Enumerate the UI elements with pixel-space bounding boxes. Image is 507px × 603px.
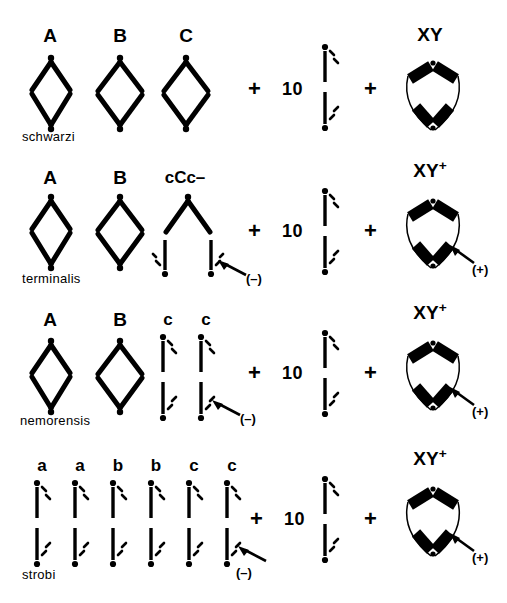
chromosome-label-b-1: b xyxy=(108,456,128,475)
chromosome-label-c-2: c xyxy=(222,456,242,475)
minus-arrow-pointer xyxy=(236,544,270,566)
ring-bivalent-A xyxy=(26,336,76,418)
karyotype-row-terminalis: A B cCc– xyxy=(0,148,507,296)
chromosome-label-B: B xyxy=(106,168,134,187)
ring-bivalent-B xyxy=(92,192,148,274)
chromosome-label-A: A xyxy=(36,168,64,187)
karyotype-row-nemorensis: A B c c xyxy=(0,294,507,442)
chromosome-label-B: B xyxy=(106,26,134,45)
ring-bivalent-C xyxy=(158,53,214,135)
xy-sex-chromosome-ring xyxy=(398,50,468,140)
sex-chromosome-label-text: XY xyxy=(413,160,438,181)
plus-annotation-label: (+) xyxy=(472,263,488,276)
minus-annotation-label: (–) xyxy=(236,566,252,579)
ring-bivalent-A xyxy=(26,53,76,135)
chromosome-label-b-2: b xyxy=(146,456,166,475)
sex-chromosome-label-text: XY xyxy=(413,302,438,323)
bivalent-count: 10 xyxy=(282,80,303,98)
plus-sign-2: + xyxy=(364,508,377,530)
rod-bivalent-group xyxy=(318,40,348,138)
chromosome-label-cCc-minus: cCc– xyxy=(152,168,218,187)
sex-chromosome-label: XY+ xyxy=(402,303,458,322)
sex-chromosome-label: XY+ xyxy=(402,449,458,468)
chromosome-label-c-1: c xyxy=(158,310,178,329)
chromosome-label-a-1: a xyxy=(32,456,52,475)
sex-chromosome-superscript: + xyxy=(439,446,447,461)
plus-sign-2: + xyxy=(364,78,377,100)
species-name-strobi: strobi xyxy=(22,568,56,581)
bivalent-count: 10 xyxy=(284,510,305,528)
chromosome-label-a-2: a xyxy=(70,456,90,475)
minus-annotation-label: (–) xyxy=(240,412,256,425)
sex-chromosome-label: XY+ xyxy=(402,161,458,180)
species-name-schwarzi: schwarzi xyxy=(22,130,75,143)
ring-bivalent-A xyxy=(26,192,76,274)
rod-bivalent-group xyxy=(318,326,348,424)
plus-annotation-label: (+) xyxy=(472,551,488,564)
plus-sign-1: + xyxy=(250,508,263,530)
chromosome-karyotype-figure: A B C xyxy=(0,0,507,603)
plus-sign-1: + xyxy=(248,220,261,242)
sex-chromosome-label-text: XY xyxy=(413,448,438,469)
minus-arrow-pointer xyxy=(216,258,250,280)
chromosome-label-A: A xyxy=(36,26,64,45)
plus-annotation-label: (+) xyxy=(472,405,488,418)
sex-chromosome-superscript: + xyxy=(439,300,447,315)
plus-sign-2: + xyxy=(364,220,377,242)
bivalent-count: 10 xyxy=(282,364,303,382)
sex-chromosome-superscript: + xyxy=(439,158,447,173)
rod-univalent-b-1 xyxy=(106,476,136,574)
species-name-terminalis: terminalis xyxy=(22,272,81,285)
sex-chromosome-label-text: XY xyxy=(417,24,442,45)
species-name-nemorensis: nemorensis xyxy=(20,414,90,427)
chromosome-label-B: B xyxy=(106,310,134,329)
rod-univalent-a-2 xyxy=(68,476,98,574)
ring-bivalent-B xyxy=(92,53,148,135)
sex-chromosome-label: XY xyxy=(404,25,456,44)
chromosome-label-C: C xyxy=(172,26,200,45)
rod-univalent-b-2 xyxy=(144,476,174,574)
bivalent-count: 10 xyxy=(282,222,303,240)
plus-sign-1: + xyxy=(248,78,261,100)
rod-univalent-c-1 xyxy=(156,330,186,428)
karyotype-row-schwarzi: A B C xyxy=(0,0,507,150)
rod-bivalent-group xyxy=(318,472,348,570)
karyotype-row-strobi: a a b b c c xyxy=(0,440,507,603)
rod-univalent-a-1 xyxy=(30,476,60,574)
chromosome-label-c-2: c xyxy=(196,310,216,329)
rod-univalent-c-1 xyxy=(182,476,212,574)
rod-bivalent-group xyxy=(318,184,348,282)
chromosome-label-A: A xyxy=(36,310,64,329)
minus-annotation-label: (–) xyxy=(246,272,262,285)
trivalent-cCc xyxy=(152,192,224,282)
ring-bivalent-B xyxy=(92,336,148,418)
chromosome-label-c-1: c xyxy=(184,456,204,475)
plus-sign-1: + xyxy=(248,362,261,384)
plus-sign-2: + xyxy=(364,362,377,384)
minus-arrow-pointer xyxy=(210,398,244,420)
